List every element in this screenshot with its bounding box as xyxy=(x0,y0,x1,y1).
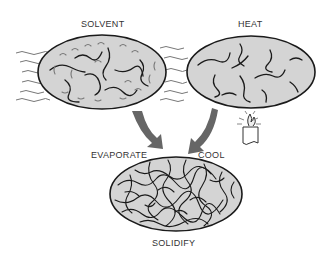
label-heat: HEAT xyxy=(238,19,263,29)
label-solidify: SOLIDIFY xyxy=(152,238,195,248)
solvent-ellipse xyxy=(38,35,166,109)
heat-ellipse xyxy=(187,36,315,108)
label-evaporate: EVAPORATE xyxy=(91,150,147,160)
evaporate-arrow xyxy=(132,111,163,149)
polymer-diagram: SOLVENT HEAT EVAPORATE COOL SOLIDIFY xyxy=(0,0,331,257)
label-cool: COOL xyxy=(198,150,225,160)
solid-ellipse xyxy=(110,157,242,231)
label-solvent: SOLVENT xyxy=(81,19,124,29)
cool-arrow xyxy=(188,108,218,154)
candle-icon xyxy=(237,111,261,145)
diagram-graphics xyxy=(0,0,331,257)
